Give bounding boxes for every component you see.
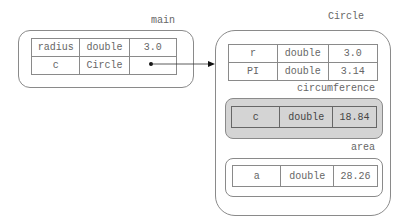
reference-arrow-icon: [0, 0, 410, 224]
